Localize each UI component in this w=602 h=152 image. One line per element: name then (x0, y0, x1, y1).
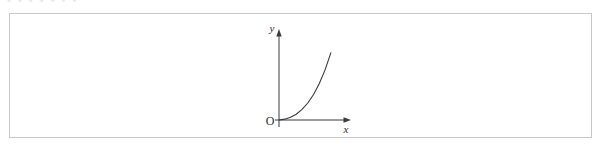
x-axis-label: x (343, 123, 349, 135)
y-axis-arrow-icon (276, 29, 281, 37)
origin-label: O (266, 114, 275, 128)
graph-plot-area: y x O (245, 19, 365, 137)
function-curve (279, 53, 331, 120)
x-axis-arrow-icon (344, 117, 352, 122)
figure-frame: y x O (9, 13, 592, 138)
y-axis-label: y (269, 22, 275, 34)
coordinate-graph: y x O (245, 19, 365, 137)
top-clipped-text: • • • • • • • (7, 0, 127, 4)
